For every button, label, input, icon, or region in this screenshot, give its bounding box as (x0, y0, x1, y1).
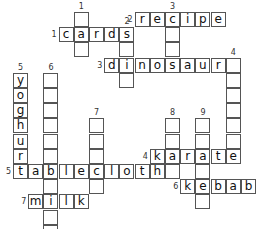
crossword-cell[interactable]: a (226, 179, 241, 194)
crossword-cell[interactable]: c (59, 27, 74, 42)
crossword-cell[interactable] (165, 42, 180, 57)
crossword-cell[interactable]: a (74, 27, 89, 42)
crossword-cell[interactable] (226, 118, 241, 133)
crossword-cell[interactable] (89, 118, 104, 133)
crossword-cell[interactable] (43, 103, 58, 118)
down-clue-number: 8 (170, 109, 175, 117)
crossword-cell[interactable]: a (180, 58, 195, 73)
down-clue-number: 1 (79, 3, 84, 11)
crossword-cell[interactable]: u (195, 58, 210, 73)
crossword-cell[interactable] (165, 27, 180, 42)
crossword-cell[interactable] (43, 134, 58, 149)
crossword-cell[interactable] (195, 164, 210, 179)
crossword-cell[interactable]: u (13, 134, 28, 149)
crossword-cell[interactable]: b (241, 179, 256, 194)
crossword-cell[interactable] (226, 88, 241, 103)
crossword-cell[interactable]: y (13, 73, 28, 88)
crossword-cell[interactable]: n (135, 58, 150, 73)
crossword-cell[interactable]: d (104, 58, 119, 73)
down-clue-number: 3 (170, 3, 175, 11)
crossword-cell[interactable]: o (150, 58, 165, 73)
down-clue-number: 9 (200, 109, 205, 117)
across-clue-number: 4 (143, 153, 148, 161)
crossword-cell[interactable]: a (195, 149, 210, 164)
crossword-cell[interactable]: s (119, 27, 134, 42)
crossword-cell[interactable]: i (43, 194, 58, 209)
across-clue-number: 1 (52, 31, 57, 39)
crossword-cell[interactable] (119, 42, 134, 57)
crossword-cell[interactable]: h (150, 164, 165, 179)
crossword-cell[interactable]: c (165, 12, 180, 27)
crossword-cell[interactable] (119, 73, 134, 88)
crossword-cell[interactable]: o (119, 164, 134, 179)
crossword-cell[interactable] (195, 194, 210, 209)
crossword-cell[interactable] (43, 88, 58, 103)
crossword-cell[interactable]: p (195, 12, 210, 27)
down-clue-number: 6 (48, 64, 53, 72)
crossword-cell[interactable]: i (119, 58, 134, 73)
crossword-cell[interactable]: k (74, 194, 89, 209)
crossword-cell[interactable] (226, 73, 241, 88)
crossword-cell[interactable]: r (211, 58, 226, 73)
crossword-cell[interactable] (195, 134, 210, 149)
down-clue-number: 2 (124, 18, 129, 26)
crossword-cell[interactable]: l (59, 164, 74, 179)
crossword-cell[interactable]: e (150, 12, 165, 27)
crossword-cell[interactable] (195, 118, 210, 133)
crossword-cell[interactable]: l (104, 164, 119, 179)
crossword-board: cardsrecipedinosaurkaratetableclothkebab… (0, 0, 264, 229)
crossword-cell[interactable]: s (165, 58, 180, 73)
crossword-cell[interactable]: e (74, 164, 89, 179)
crossword-cell[interactable]: c (89, 164, 104, 179)
across-clue-number: 6 (173, 183, 178, 191)
crossword-cell[interactable]: t (211, 149, 226, 164)
crossword-cell[interactable]: k (180, 179, 195, 194)
crossword-cell[interactable] (43, 118, 58, 133)
crossword-cell[interactable] (43, 179, 58, 194)
across-clue-number: 3 (97, 62, 102, 70)
crossword-cell[interactable]: a (165, 149, 180, 164)
crossword-cell[interactable] (74, 42, 89, 57)
crossword-cell[interactable] (43, 73, 58, 88)
down-clue-number: 5 (18, 64, 23, 72)
crossword-cell[interactable]: d (104, 27, 119, 42)
across-clue-number: 7 (21, 198, 26, 206)
down-clue-number: 4 (231, 49, 236, 57)
crossword-cell[interactable]: o (13, 88, 28, 103)
across-clue-number: 5 (6, 168, 11, 176)
crossword-cell[interactable]: e (211, 12, 226, 27)
crossword-cell[interactable] (89, 149, 104, 164)
crossword-cell[interactable]: b (43, 164, 58, 179)
crossword-cell[interactable]: m (28, 194, 43, 209)
crossword-cell[interactable]: e (226, 149, 241, 164)
crossword-cell[interactable] (74, 12, 89, 27)
crossword-cell[interactable]: a (28, 164, 43, 179)
crossword-cell[interactable] (43, 149, 58, 164)
crossword-cell[interactable]: r (180, 149, 195, 164)
crossword-cell[interactable]: i (180, 12, 195, 27)
crossword-cell[interactable]: l (59, 194, 74, 209)
crossword-cell[interactable]: r (13, 149, 28, 164)
crossword-cell[interactable]: k (150, 149, 165, 164)
crossword-cell[interactable]: b (211, 179, 226, 194)
down-clue-number: 7 (94, 109, 99, 117)
crossword-cell[interactable] (165, 164, 180, 179)
crossword-cell[interactable] (226, 103, 241, 118)
crossword-cell[interactable] (43, 225, 58, 229)
crossword-cell[interactable] (165, 134, 180, 149)
crossword-cell[interactable] (165, 118, 180, 133)
crossword-cell[interactable]: e (195, 179, 210, 194)
crossword-cell[interactable] (89, 179, 104, 194)
crossword-cell[interactable] (89, 134, 104, 149)
crossword-cell[interactable]: r (89, 27, 104, 42)
crossword-cell[interactable]: h (13, 118, 28, 133)
crossword-cell[interactable]: t (135, 164, 150, 179)
crossword-cell[interactable]: r (135, 12, 150, 27)
crossword-cell[interactable] (43, 210, 58, 225)
crossword-cell[interactable] (226, 58, 241, 73)
crossword-cell[interactable] (226, 134, 241, 149)
crossword-cell[interactable]: g (13, 103, 28, 118)
crossword-cell[interactable]: t (13, 164, 28, 179)
